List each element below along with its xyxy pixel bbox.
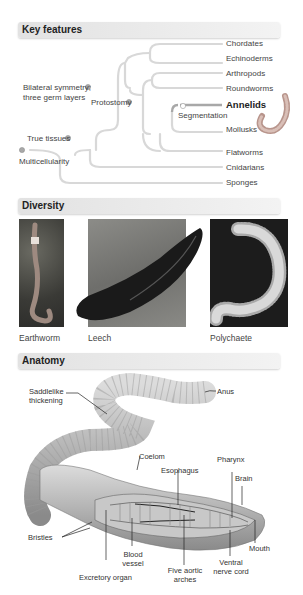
label-ventral-2: nerve cord [210,567,252,576]
label-pharynx: Pharynx [217,455,245,464]
label-brain: Brain [235,474,253,483]
label-esophagus: Esophagus [161,466,199,475]
label-saddlelike-1: Saddlelike [29,387,64,396]
label-blood-vessel-2: vessel [120,559,146,568]
label-bristles: Bristles [28,533,53,542]
label-ventral-1: Ventral [210,558,252,567]
label-mouth: Mouth [249,544,270,553]
earthworm-anatomy-illustration [0,0,303,595]
label-anus: Anus [217,387,234,396]
label-excretory-organ: Excretory organ [79,573,132,582]
label-saddlelike-2: thickening [29,396,63,405]
label-aortic-1: Five aortic [163,566,207,575]
label-coelom: Coelom [139,452,165,461]
label-aortic-2: arches [163,575,207,584]
label-blood-vessel-1: Blood [120,550,146,559]
